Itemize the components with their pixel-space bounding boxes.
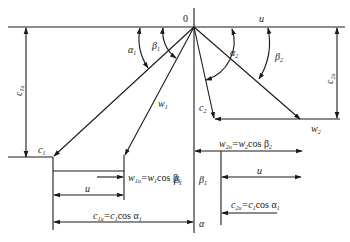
- beta2-arc: [259, 28, 269, 79]
- c1-label: c1: [38, 144, 45, 156]
- c1u-equation: c1u=c1cos α1: [93, 210, 142, 222]
- alpha-bottom-label: α: [199, 218, 205, 229]
- c2-vector: [194, 27, 214, 118]
- origin-label: 0: [183, 13, 188, 24]
- w2u-equation: w2u=w2cos β2: [219, 138, 272, 150]
- beta1-label: β1: [151, 40, 160, 52]
- alpha2-label: α2: [230, 47, 238, 59]
- c2u-equation: c2u=c1cos α1: [231, 199, 280, 211]
- c2-label: c2: [199, 102, 206, 114]
- c2a-label: c2a: [324, 74, 336, 84]
- u-label-left: u: [85, 183, 90, 194]
- c1a-dimension: c1a: [8, 28, 53, 157]
- c2a-dimension: c2a: [324, 28, 337, 118]
- w2-label: w2: [311, 123, 321, 135]
- beta1-mid-right-label: β1: [198, 174, 207, 186]
- u-label-right: u: [257, 165, 262, 176]
- velocity-triangle-diagram: 0 u c1a c1 w1 α1 β1 c2 w2 α2: [0, 0, 350, 242]
- beta1-mid-left-label: β1: [173, 174, 182, 186]
- beta2-label: β2: [274, 51, 283, 63]
- alpha1-arc: [139, 28, 148, 68]
- c1a-label: c1a: [13, 86, 25, 96]
- w2-vector: [194, 27, 300, 119]
- c1-vector: [54, 27, 194, 156]
- w1-label: w1: [158, 98, 168, 110]
- alpha1-label: α1: [128, 44, 136, 56]
- u-label-top: u: [259, 13, 264, 24]
